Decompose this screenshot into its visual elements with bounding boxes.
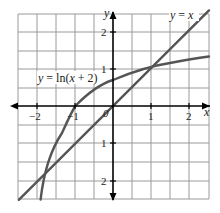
y-tick-2: 2 [101, 26, 107, 38]
label-x-var: x [187, 8, 194, 22]
label-y-equals-ln-x-plus-2: y = ln(x + 2) [37, 71, 98, 85]
label-y-equals-x: y = x [169, 8, 194, 22]
y-axis-label: y [103, 6, 110, 20]
label-equals: = [175, 8, 188, 22]
x-axis-label: x [203, 105, 210, 119]
x-tick-neg2: −2 [29, 110, 41, 122]
x-tick-0: 0 [103, 107, 109, 119]
x-tick-1: 1 [148, 110, 154, 122]
y-tick-1: 1 [101, 63, 107, 75]
line-y-equals-x [19, 10, 209, 199]
x-tick-2: 2 [186, 110, 192, 122]
label-ln: = ln( [43, 71, 69, 85]
y-tick-neg1: 1 [101, 137, 107, 149]
graph: −2 −1 0 1 2 2 1 1 2 y x y = x y = ln(x +… [0, 0, 220, 213]
label-plus-2: + 2) [75, 71, 98, 85]
y-axis-down-arrow-icon [110, 193, 117, 201]
x-axis-left-arrow-icon [10, 103, 18, 110]
y-tick-neg2: 2 [101, 175, 107, 187]
y-axis-up-arrow-icon [110, 11, 117, 19]
x-tick-neg1: −1 [67, 110, 79, 122]
